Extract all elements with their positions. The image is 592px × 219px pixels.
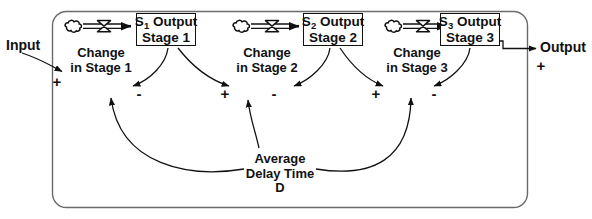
stock-s2[interactable]: S2 Output Stage 2 — [303, 13, 363, 46]
flow-2-valve-icon — [266, 21, 279, 32]
flow-2-cloud — [233, 20, 249, 32]
flow-3-line1: Change — [378, 46, 456, 61]
auxiliary-line3: D — [225, 181, 335, 196]
polarity-flow1-negative: - — [133, 86, 145, 103]
link-delay-to-flow2 — [248, 100, 259, 148]
flow-1-line1: Change — [62, 46, 140, 61]
stock-s3-line1: S3 Output — [439, 14, 501, 30]
flow-3-cloud — [385, 20, 401, 32]
input-label: Input — [6, 38, 56, 54]
link-input-to-flow1 — [22, 53, 62, 72]
polarity-flow2-negative: - — [268, 86, 280, 103]
stock-s1-line1: S1 Output — [135, 14, 197, 30]
flow-1-valve-icon — [98, 21, 111, 32]
output-label: Output — [540, 40, 592, 56]
flow-2-pipe — [251, 24, 299, 28]
flow-3-label[interactable]: Change in Stage 3 — [378, 46, 456, 75]
stock-s1-line2: Stage 1 — [142, 30, 190, 46]
flow-1-line2: in Stage 1 — [62, 61, 140, 76]
flow-2-label[interactable]: Change in Stage 2 — [228, 46, 306, 75]
flow-1-pipe — [83, 24, 131, 28]
polarity-flow2-positive: + — [219, 86, 231, 103]
flow-3-valve-icon — [417, 21, 430, 32]
auxiliary-average-delay-time[interactable]: Average Delay Time D — [225, 152, 335, 196]
stock-s2-line1: S2 Output — [302, 14, 364, 30]
diagram-canvas: S1 Output Stage 1 S2 Output Stage 2 S3 O… — [0, 0, 592, 219]
link-s1-to-flow2-positive — [178, 48, 229, 86]
link-s3-to-output — [500, 41, 536, 49]
flow-3-line2: in Stage 3 — [378, 61, 456, 76]
flow-2-line1: Change — [228, 46, 306, 61]
link-s2-to-flow3-positive — [340, 48, 383, 86]
polarity-input: + — [51, 74, 63, 91]
polarity-output: + — [535, 58, 547, 75]
stock-s2-line2: Stage 2 — [309, 30, 357, 46]
auxiliary-line2: Delay Time — [225, 167, 335, 182]
flow-2-line2: in Stage 2 — [228, 61, 306, 76]
polarity-flow3-negative: - — [428, 86, 440, 103]
flow-1-cloud — [65, 20, 81, 32]
polarity-flow3-positive: + — [370, 86, 382, 103]
stock-s3[interactable]: S3 Output Stage 3 — [440, 13, 500, 46]
stock-s1[interactable]: S1 Output Stage 1 — [136, 13, 196, 46]
auxiliary-line1: Average — [225, 152, 335, 167]
flow-1-label[interactable]: Change in Stage 1 — [62, 46, 140, 75]
stock-s3-line2: Stage 3 — [446, 30, 494, 46]
